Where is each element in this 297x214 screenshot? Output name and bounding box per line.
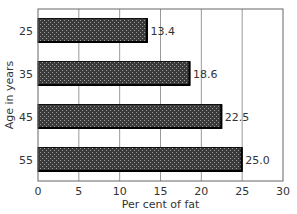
- x-tick-15: 15: [154, 185, 168, 198]
- x-tick-5: 5: [75, 185, 82, 198]
- bar-age-25: [38, 19, 147, 43]
- data-label-45: 22.5: [225, 111, 250, 124]
- x-tick-30: 30: [276, 185, 290, 198]
- x-tick-20: 20: [194, 185, 208, 198]
- y-axis-label: Age in years: [3, 60, 16, 129]
- y-tick-labels: 25354555: [19, 25, 33, 167]
- y-tick-35: 35: [19, 68, 33, 81]
- x-tick-labels: 051015202530: [35, 185, 291, 198]
- bar-chart: 051015202530 25354555 13.418.622.525.0 P…: [0, 0, 297, 214]
- bars-group: [38, 19, 242, 172]
- x-tick-25: 25: [235, 185, 249, 198]
- bar-age-45: [38, 105, 222, 129]
- data-label-35: 18.6: [193, 68, 218, 81]
- y-tick-45: 45: [19, 111, 33, 124]
- x-axis-label: Per cent of fat: [122, 198, 200, 211]
- y-tick-25: 25: [19, 25, 33, 38]
- bar-age-55: [38, 148, 242, 172]
- x-tick-0: 0: [35, 185, 42, 198]
- data-label-55: 25.0: [245, 154, 270, 167]
- y-tick-55: 55: [19, 154, 33, 167]
- data-labels: 13.418.622.525.0: [150, 25, 269, 167]
- data-label-25: 13.4: [150, 25, 175, 38]
- bar-age-35: [38, 62, 190, 86]
- x-tick-10: 10: [113, 185, 127, 198]
